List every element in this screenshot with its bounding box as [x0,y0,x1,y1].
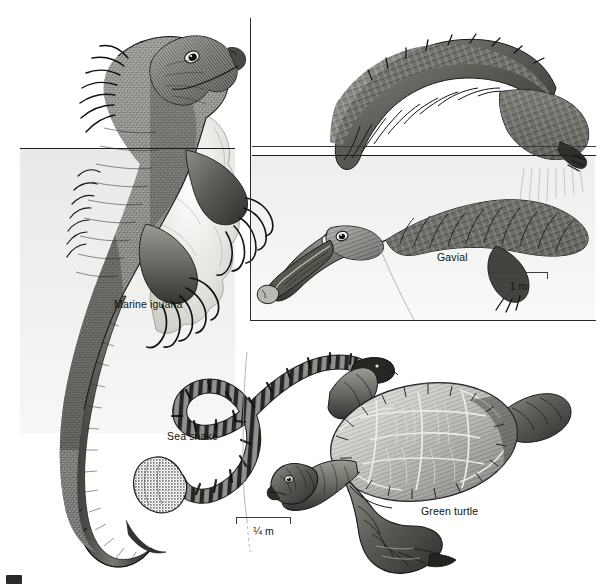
panel-border-bottom-horizontal [250,320,596,321]
scale-bar-caption: 1 m [489,281,548,292]
waterline-right [252,155,596,156]
scale-bar-snake-turtle: ¼ m [236,517,291,537]
print-registration-mark [6,575,22,584]
scale-bar-line [236,517,291,524]
water-region-right [251,155,595,321]
panel-border-left-vertical [250,18,251,320]
illustration-plate: Marine iguana Gavial Sea snake Green tur… [0,0,610,588]
water-region-left [20,148,235,433]
label-sea-snake: Sea snake [167,431,218,442]
scale-bar-line [489,272,548,279]
label-green-turtle: Green turtle [421,506,478,517]
label-marine-iguana: Marine iguana [114,299,183,310]
figure-green-turtle [267,368,571,574]
waterline-right-upper [252,146,596,147]
scale-bar-gavial: 1 m [489,272,548,292]
label-gavial: Gavial [437,252,468,263]
scale-bar-caption: ¼ m [236,526,291,537]
leader-line-sea-snake [243,352,247,520]
waterline-left [20,148,235,149]
